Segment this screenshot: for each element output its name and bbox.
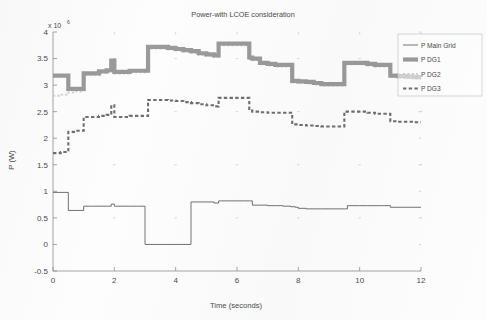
y-tick-label: 1 — [44, 187, 49, 196]
legend-label: P DG3 — [421, 85, 441, 92]
legend-label: P DG1 — [421, 56, 441, 63]
y-tick-label: -0.5 — [34, 267, 48, 276]
y-tick-label: 2.5 — [37, 108, 49, 117]
x-tick-label: 12 — [417, 276, 426, 285]
legend-label: P DG2 — [421, 71, 441, 78]
x-axis-label: Time (seconds) — [210, 301, 263, 310]
chart-title: Power-with LCOE consideration — [191, 10, 294, 19]
y-axis-label: P (W) — [7, 150, 16, 170]
x-tick-label: 0 — [51, 276, 56, 285]
y-tick-label: 2 — [44, 134, 49, 143]
x-tick-label: 10 — [355, 276, 364, 285]
y-tick-label: 0 — [44, 240, 49, 249]
y-tick-label: 0.5 — [37, 214, 49, 223]
legend-label: P Main Grid — [421, 42, 456, 49]
y-axis-exponent-base: x 10 — [48, 22, 61, 29]
x-tick-label: 2 — [112, 276, 117, 285]
chart-plot: Power-with LCOE consideration x 10 6 P (… — [0, 0, 487, 320]
y-tick-label: 1.5 — [37, 161, 49, 170]
y-tick-label: 3.5 — [37, 54, 49, 63]
figure-canvas: Power-with LCOE consideration x 10 6 P (… — [0, 0, 487, 320]
x-tick-label: 6 — [235, 276, 240, 285]
y-tick-label: 3 — [44, 81, 49, 90]
y-tick-label: 4 — [44, 28, 49, 37]
y-axis-exponent-power: 6 — [67, 19, 70, 25]
chart-legend[interactable]: P Main GridP DG1P DG2P DG3 — [398, 34, 482, 96]
x-tick-label: 4 — [173, 276, 178, 285]
x-tick-label: 8 — [296, 276, 301, 285]
